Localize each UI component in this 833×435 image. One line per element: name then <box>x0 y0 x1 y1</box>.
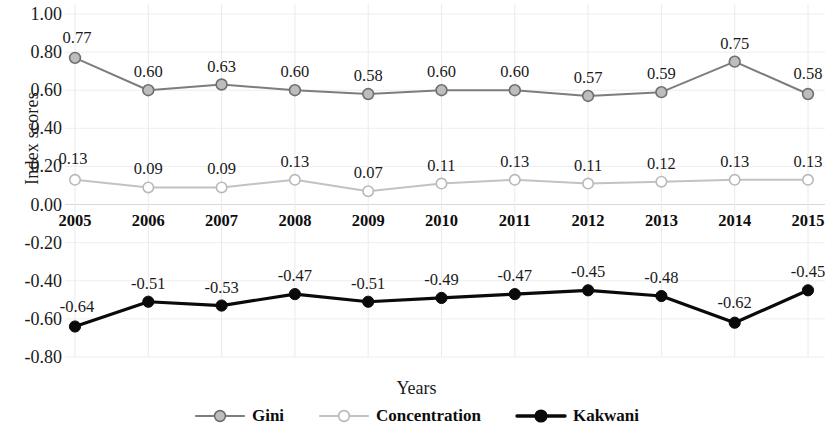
data-value-label: 0.11 <box>427 156 455 175</box>
data-value-label: 0.63 <box>207 57 236 76</box>
chart-legend: GiniConcentrationKakwani <box>0 406 833 426</box>
data-point-marker <box>290 85 301 96</box>
data-point-marker <box>730 175 740 185</box>
data-value-label: 0.13 <box>59 149 88 168</box>
data-point-marker <box>803 175 813 185</box>
data-value-label: 0.13 <box>280 152 309 171</box>
data-value-label: 0.57 <box>574 68 603 87</box>
data-value-label: 0.11 <box>574 156 602 175</box>
data-value-label: 0.75 <box>720 34 749 53</box>
data-point-marker <box>143 182 153 192</box>
data-point-marker <box>70 52 81 63</box>
x-axis-tick-label: 2011 <box>499 211 531 230</box>
legend-item-gini[interactable]: Gini <box>194 406 284 426</box>
data-value-label: 0.13 <box>794 152 823 171</box>
y-axis-tick-label: -0.20 <box>25 233 63 253</box>
data-value-label: 0.09 <box>134 159 163 178</box>
data-point-marker <box>583 285 594 296</box>
data-value-label: -0.62 <box>718 293 752 312</box>
data-point-marker <box>583 178 593 188</box>
x-axis-tick-label: 2008 <box>278 211 311 230</box>
data-value-label: -0.53 <box>204 278 238 297</box>
data-point-marker <box>510 175 520 185</box>
y-axis-title: Index scores <box>22 59 43 219</box>
data-point-marker <box>729 317 740 328</box>
data-point-marker <box>143 296 154 307</box>
data-value-label: 0.60 <box>280 62 309 81</box>
data-point-marker <box>70 175 80 185</box>
x-axis-tick-label: 2012 <box>572 211 605 230</box>
data-point-marker <box>656 176 666 186</box>
data-point-marker <box>583 91 594 102</box>
x-axis-title: Years <box>0 378 833 399</box>
data-point-marker <box>509 289 520 300</box>
x-axis-tick-label: 2015 <box>792 211 825 230</box>
x-axis-tick-label: 2013 <box>645 211 678 230</box>
data-point-marker <box>656 290 667 301</box>
data-point-marker <box>143 85 154 96</box>
x-axis-tick-labels: 2005200620072008200920102011201220132014… <box>59 211 825 230</box>
x-axis-tick-label: 2014 <box>718 211 751 230</box>
data-value-label: -0.48 <box>644 268 678 287</box>
data-value-label: 0.59 <box>647 64 676 83</box>
data-point-marker <box>729 56 740 67</box>
data-value-label: -0.47 <box>278 266 312 285</box>
y-axis-tick-label: -0.80 <box>25 347 63 367</box>
data-value-label: 0.60 <box>134 62 163 81</box>
data-point-marker <box>216 300 227 311</box>
data-value-label: 0.13 <box>720 152 749 171</box>
x-axis-tick-label: 2005 <box>59 211 92 230</box>
legend-item-kakwani[interactable]: Kakwani <box>515 406 639 426</box>
x-axis-tick-label: 2007 <box>205 211 238 230</box>
legend-marker-icon <box>194 408 246 424</box>
plot-area: 1.000.800.600.400.200.00-0.20-0.40-0.60-… <box>0 0 833 435</box>
data-point-marker <box>436 178 446 188</box>
line-chart: 1.000.800.600.400.200.00-0.20-0.40-0.60-… <box>0 0 833 435</box>
y-axis-tick-label: -0.40 <box>25 271 63 291</box>
data-point-marker <box>363 186 373 196</box>
data-point-marker <box>436 292 447 303</box>
data-value-label: 0.58 <box>354 66 383 85</box>
data-value-label: -0.49 <box>424 270 458 289</box>
data-point-marker <box>656 87 667 98</box>
legend-marker-icon <box>318 408 370 424</box>
legend-label: Gini <box>252 406 284 426</box>
data-point-marker <box>803 89 814 100</box>
data-point-marker <box>216 182 226 192</box>
data-value-label: 0.09 <box>207 159 236 178</box>
data-point-marker <box>289 289 300 300</box>
legend-marker-icon <box>515 408 567 424</box>
data-value-label: 0.60 <box>427 62 456 81</box>
legend-item-concentration[interactable]: Concentration <box>318 406 481 426</box>
x-axis-tick-label: 2006 <box>132 211 165 230</box>
x-axis-tick-label: 2010 <box>425 211 458 230</box>
data-point-marker <box>802 285 813 296</box>
data-value-label: -0.45 <box>791 262 825 281</box>
data-point-marker <box>69 321 80 332</box>
data-value-label: -0.51 <box>131 274 165 293</box>
data-point-marker <box>363 296 374 307</box>
data-value-label: -0.51 <box>351 274 385 293</box>
data-point-marker <box>509 85 520 96</box>
data-value-label: -0.45 <box>571 262 605 281</box>
data-value-label: 0.77 <box>63 28 92 47</box>
legend-label: Concentration <box>376 406 481 426</box>
data-value-label: 0.58 <box>794 64 823 83</box>
data-value-label: 0.13 <box>500 152 529 171</box>
y-axis-tick-label: 1.00 <box>31 4 63 24</box>
data-point-marker <box>216 79 227 90</box>
data-point-marker <box>363 89 374 100</box>
legend-label: Kakwani <box>573 406 639 426</box>
data-value-label: 0.07 <box>354 163 383 182</box>
data-point-marker <box>290 175 300 185</box>
data-value-label: 0.12 <box>647 154 676 173</box>
y-axis-tick-label: -0.60 <box>25 309 63 329</box>
data-value-label: 0.60 <box>500 62 529 81</box>
x-axis-tick-label: 2009 <box>352 211 385 230</box>
data-value-label: -0.47 <box>498 266 532 285</box>
data-point-marker <box>436 85 447 96</box>
data-value-label: -0.64 <box>60 297 94 316</box>
